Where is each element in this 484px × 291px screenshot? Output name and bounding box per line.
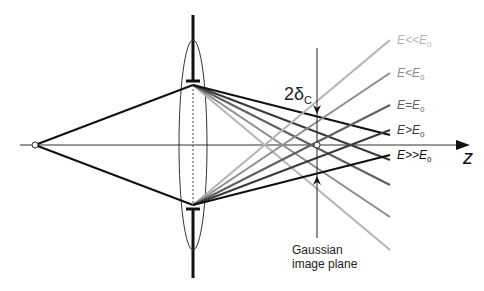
image-plane-label: Gaussianimage plane [292,243,357,271]
object-point [32,142,38,148]
ray-label-e-greater: E>E0 [397,124,424,139]
object-ray-bottom [35,145,193,205]
object-ray-top [35,85,193,145]
image-point [314,142,320,148]
ray-label-e-much-greater: E>>E0 [397,149,431,164]
axis-label-z: z [463,146,473,169]
ray-label-e-much-less: E<<E0 [397,34,431,49]
spot-size-label: 2δC [284,84,312,106]
ray-label-e-less: E<E0 [397,67,424,82]
ray-label-e-equal: E=E0 [397,99,424,114]
rays-from-bottom [193,40,390,205]
